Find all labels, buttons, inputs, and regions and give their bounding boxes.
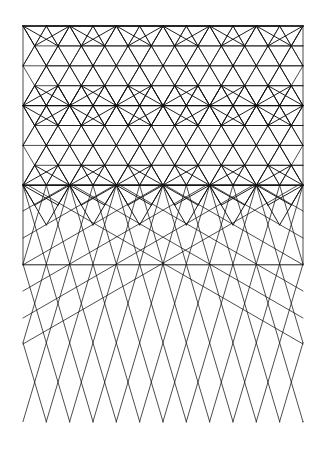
background xyxy=(0,0,321,450)
geometric-pattern-figure xyxy=(0,0,321,450)
